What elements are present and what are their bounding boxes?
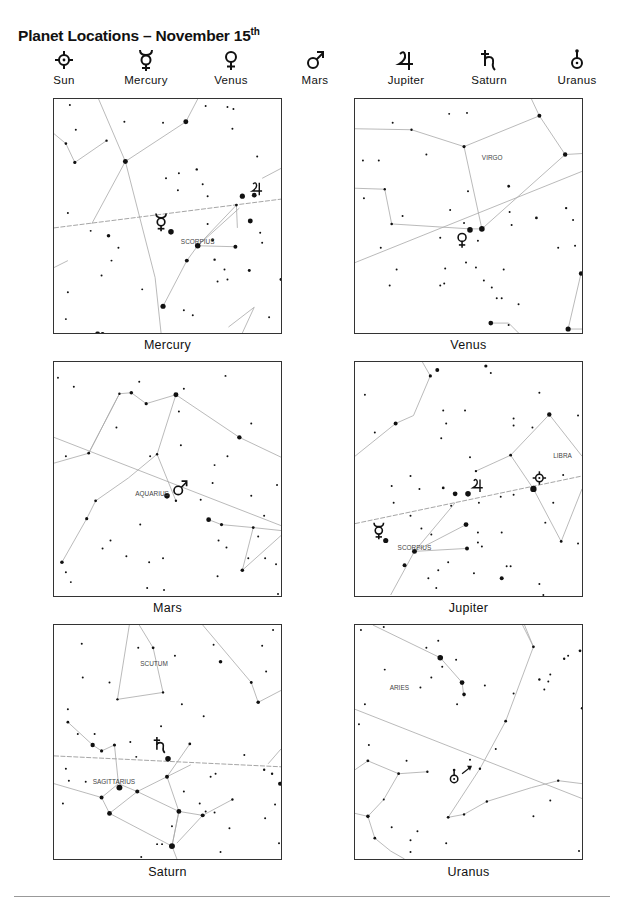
legend-label: Jupiter bbox=[366, 74, 446, 86]
star-chart-mercury: SCORPIUS bbox=[53, 98, 282, 334]
chart-caption: Uranus bbox=[354, 865, 583, 879]
constellation-label-aries: ARIES bbox=[390, 684, 409, 691]
legend-sun: Sun bbox=[24, 47, 104, 86]
legend-uranus: Uranus bbox=[541, 47, 613, 86]
star-chart-saturn: SCUTUM SAGITTARIUS bbox=[53, 624, 282, 860]
sun-icon bbox=[533, 471, 546, 484]
mercury-icon bbox=[156, 214, 166, 232]
legend-mercury: Mercury bbox=[106, 47, 186, 86]
chart-caption: Mercury bbox=[53, 338, 282, 352]
venus-icon bbox=[191, 47, 271, 73]
star-chart-venus: VIRGO bbox=[354, 98, 583, 334]
saturn-icon bbox=[449, 47, 529, 73]
page-title: Planet Locations – November 15th bbox=[18, 26, 260, 45]
star-chart-mars: AQUARIUS bbox=[53, 361, 282, 597]
jupiter-icon bbox=[473, 479, 483, 491]
constellation-label-scorpius: SCORPIUS bbox=[398, 544, 432, 551]
venus-icon bbox=[458, 233, 466, 247]
uranus-icon bbox=[541, 47, 613, 73]
star-chart-uranus: ARIES bbox=[354, 624, 583, 860]
mars-icon bbox=[275, 47, 355, 73]
legend-label: Sun bbox=[24, 74, 104, 86]
legend-label: Mars bbox=[275, 74, 355, 86]
sun-icon bbox=[24, 47, 104, 73]
legend-venus: Venus bbox=[191, 47, 271, 86]
legend-label: Venus bbox=[191, 74, 271, 86]
star-chart-jupiter: LIBRA SCORPIUS bbox=[354, 361, 583, 597]
mercury-icon bbox=[106, 47, 186, 73]
legend-jupiter: Jupiter bbox=[366, 47, 446, 86]
chart-caption: Jupiter bbox=[354, 601, 583, 615]
constellation-label-scorpius: SCORPIUS bbox=[181, 238, 215, 245]
mercury-icon bbox=[374, 523, 384, 540]
legend-label: Mercury bbox=[106, 74, 186, 86]
uranus-icon bbox=[450, 769, 457, 783]
direction-arrow-icon bbox=[462, 766, 472, 774]
jupiter-icon bbox=[366, 47, 446, 73]
legend-label: Saturn bbox=[449, 74, 529, 86]
chart-caption: Saturn bbox=[53, 865, 282, 879]
constellation-label-virgo: VIRGO bbox=[482, 154, 503, 161]
constellation-label-libra: LIBRA bbox=[553, 452, 572, 459]
constellation-label-sagittarius: SAGITTARIUS bbox=[93, 778, 135, 785]
constellation-label-aquarius: AQUARIUS bbox=[135, 490, 169, 498]
constellation-label-scutum: SCUTUM bbox=[140, 660, 168, 667]
legend-saturn: Saturn bbox=[449, 47, 529, 86]
footer-divider bbox=[14, 896, 610, 897]
legend-mars: Mars bbox=[275, 47, 355, 86]
chart-caption: Mars bbox=[53, 601, 282, 615]
chart-caption: Venus bbox=[354, 338, 583, 352]
saturn-icon bbox=[154, 737, 165, 753]
legend-label: Uranus bbox=[541, 74, 613, 86]
